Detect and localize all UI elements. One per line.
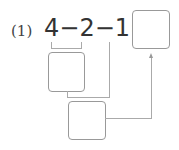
connector-horizontal: [67, 97, 110, 98]
arrow-vertical: [151, 57, 152, 119]
intermediate-box-1[interactable]: [48, 52, 85, 92]
answer-box[interactable]: [132, 10, 170, 49]
arrow-horizontal: [105, 118, 152, 119]
problem-number: (1): [11, 22, 32, 40]
arrow-head-icon: [149, 53, 153, 58]
bracket-bottom: [51, 48, 82, 49]
intermediate-box-2[interactable]: [68, 101, 106, 140]
connector-from-one: [109, 42, 110, 98]
